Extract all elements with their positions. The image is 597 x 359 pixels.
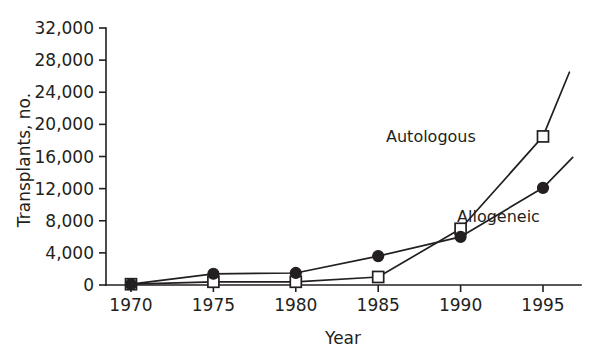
y-tick-label: 28,000	[35, 50, 94, 70]
series-line-autologous	[131, 72, 569, 284]
x-tick-label: 1990	[439, 295, 482, 315]
y-axis-title: Transplants, no.	[14, 93, 34, 228]
series-label-autologous: Autologous	[386, 127, 476, 146]
y-tick-label: 32,000	[35, 18, 94, 38]
chart-figure: 04,0008,00012,00016,00020,00024,00028,00…	[0, 0, 597, 359]
x-tick-label: 1980	[274, 295, 317, 315]
y-tick-label: 20,000	[35, 114, 94, 134]
series-annotations: AutologousAllogeneic	[386, 127, 540, 226]
y-tick-label: 8,000	[45, 211, 94, 231]
y-tick-label: 12,000	[35, 179, 94, 199]
marker-allogeneic	[208, 268, 219, 279]
marker-allogeneic	[126, 279, 137, 290]
x-tick-label: 1995	[521, 295, 564, 315]
marker-allogeneic	[373, 251, 384, 262]
data-series-group	[126, 72, 573, 289]
y-tick-label: 24,000	[35, 82, 94, 102]
y-tick-label: 16,000	[35, 147, 94, 167]
y-axis: 04,0008,00012,00016,00020,00024,00028,00…	[35, 18, 106, 295]
x-axis: 197019751980198519901995	[106, 285, 581, 315]
marker-allogeneic	[290, 267, 301, 278]
marker-allogeneic	[455, 231, 466, 242]
chart-plot-area: 04,0008,00012,00016,00020,00024,00028,00…	[0, 0, 597, 359]
y-tick-label: 0	[83, 275, 94, 295]
marker-autologous	[373, 271, 384, 282]
series-label-allogeneic: Allogeneic	[457, 207, 540, 226]
marker-allogeneic	[538, 182, 549, 193]
x-tick-label: 1970	[109, 295, 152, 315]
x-tick-label: 1985	[357, 295, 400, 315]
marker-autologous	[538, 131, 549, 142]
x-tick-label: 1975	[192, 295, 235, 315]
x-axis-title: Year	[324, 328, 361, 348]
y-tick-label: 4,000	[45, 243, 94, 263]
